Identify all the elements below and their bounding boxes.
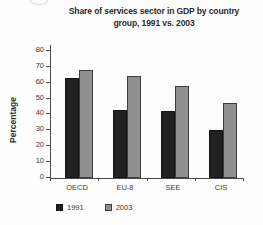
y-tick-mark-20 (46, 145, 50, 146)
y-tick-mark-70 (46, 66, 50, 67)
bar-2003-SEE (175, 86, 189, 178)
x-tick-mark-2 (147, 178, 148, 181)
y-tick-mark-40 (46, 113, 50, 114)
legend-item-1991: 1991 (56, 203, 84, 212)
legend-label-1991: 1991 (67, 203, 84, 212)
legend-item-2003: 2003 (105, 203, 133, 212)
legend-swatch-2003 (105, 204, 112, 211)
x-tick-mark-1 (98, 178, 99, 181)
x-tick-mark-0 (50, 178, 51, 181)
x-category-label-CIS: CIS (199, 183, 243, 193)
legend-swatch-1991 (56, 204, 63, 211)
y-tick-mark-50 (46, 98, 50, 99)
chart-legend: 1991 2003 (56, 202, 132, 212)
x-tick-mark-3 (195, 178, 196, 181)
bar-2003-EU-8 (127, 76, 141, 178)
x-category-label-EU-8: EU-8 (103, 183, 147, 193)
y-tick-label-10: 10 (26, 156, 44, 166)
y-tick-label-50: 50 (26, 93, 44, 103)
chart-screenshot: Share of services sector in GDP by count… (0, 0, 263, 225)
bar-1991-EU-8 (113, 110, 127, 178)
bar-1991-CIS (209, 130, 223, 178)
y-tick-label-70: 70 (26, 61, 44, 71)
y-tick-mark-80 (46, 50, 50, 51)
bar-1991-SEE (161, 111, 175, 178)
y-tick-label-80: 80 (26, 45, 44, 55)
bar-1991-OECD (65, 78, 79, 178)
y-tick-label-30: 30 (26, 124, 44, 134)
x-category-label-SEE: SEE (151, 183, 195, 193)
chart-title: Share of services sector in GDP by count… (50, 5, 258, 29)
y-tick-label-20: 20 (26, 140, 44, 150)
chart-title-line-2: group, 1991 vs. 2003 (50, 17, 258, 29)
bar-2003-OECD (79, 70, 93, 178)
chart-title-line-1: Share of services sector in GDP by count… (50, 5, 258, 17)
y-tick-mark-10 (46, 161, 50, 162)
legend-label-2003: 2003 (116, 203, 133, 212)
y-tick-label-60: 60 (26, 77, 44, 87)
y-tick-label-40: 40 (26, 108, 44, 118)
x-tick-mark-4 (243, 178, 244, 181)
y-tick-mark-60 (46, 82, 50, 83)
x-category-label-OECD: OECD (55, 183, 99, 193)
y-tick-mark-30 (46, 129, 50, 130)
cropped-text-artifact (30, 0, 48, 5)
bar-2003-CIS (223, 103, 237, 178)
y-tick-label-0: 0 (26, 172, 44, 182)
chart-plot-area (50, 45, 244, 179)
y-axis-title: Percentage (8, 84, 20, 156)
